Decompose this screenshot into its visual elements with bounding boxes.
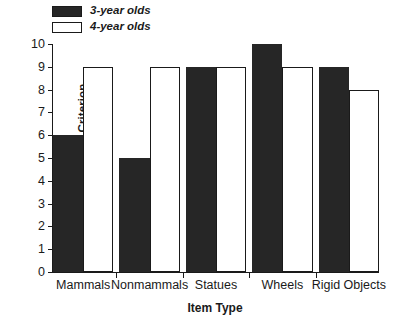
x-axis-category-label: Mammals — [56, 279, 110, 292]
x-axis-category-label: Statues — [195, 279, 237, 292]
bar[interactable] — [119, 158, 149, 272]
legend-label-3-year-olds: 3-year olds — [90, 5, 151, 17]
bar-group — [186, 44, 246, 272]
x-axis-category-label: Rigid Objects — [312, 279, 386, 292]
legend-item-4-year-olds: 4-year olds — [52, 20, 151, 34]
bar-group — [319, 44, 379, 272]
bar[interactable] — [83, 67, 113, 272]
bar[interactable] — [216, 67, 246, 272]
legend-swatch-filled — [52, 6, 82, 17]
bar[interactable] — [349, 90, 379, 272]
legend-label-4-year-olds: 4-year olds — [90, 21, 151, 33]
y-axis-tick-label: 1 — [38, 243, 45, 256]
bar[interactable] — [319, 67, 349, 272]
bar[interactable] — [53, 135, 83, 272]
x-axis-category-label: Wheels — [262, 279, 304, 292]
y-axis-tick-label: 2 — [38, 220, 45, 233]
y-axis-tick-label: 10 — [31, 38, 45, 51]
chart-legend: 3-year olds 4-year olds — [52, 4, 151, 36]
y-axis-tick-label: 7 — [38, 106, 45, 119]
y-axis-tick-label: 4 — [38, 175, 45, 188]
x-axis-tick — [183, 272, 184, 278]
y-axis-tick-label: 9 — [38, 61, 45, 74]
bar[interactable] — [282, 67, 312, 272]
bar-groups — [53, 44, 379, 272]
y-axis-tick-label: 8 — [38, 83, 45, 96]
bar[interactable] — [186, 67, 216, 272]
bar[interactable] — [150, 67, 180, 272]
bar-group — [252, 44, 312, 272]
y-axis-tick-label: 5 — [38, 152, 45, 165]
plot-area: 012345678910 MammalsNonmammalsStatuesWhe… — [52, 44, 379, 273]
bar-group — [119, 44, 179, 272]
x-axis-tick — [249, 272, 250, 278]
y-axis-tick-label: 3 — [38, 197, 45, 210]
y-axis-tick — [48, 272, 53, 273]
bar[interactable] — [252, 44, 282, 272]
legend-swatch-hollow — [52, 22, 82, 33]
y-axis-tick-label: 0 — [38, 266, 45, 279]
bar-group — [53, 44, 113, 272]
y-axis-tick-label: 6 — [38, 129, 45, 142]
x-axis-title: Item Type — [52, 301, 378, 315]
legend-item-3-year-olds: 3-year olds — [52, 4, 151, 18]
x-axis-category-label: Nonmammals — [111, 279, 188, 292]
bar-chart: 3-year olds 4-year olds N Children Meeti… — [0, 0, 396, 325]
